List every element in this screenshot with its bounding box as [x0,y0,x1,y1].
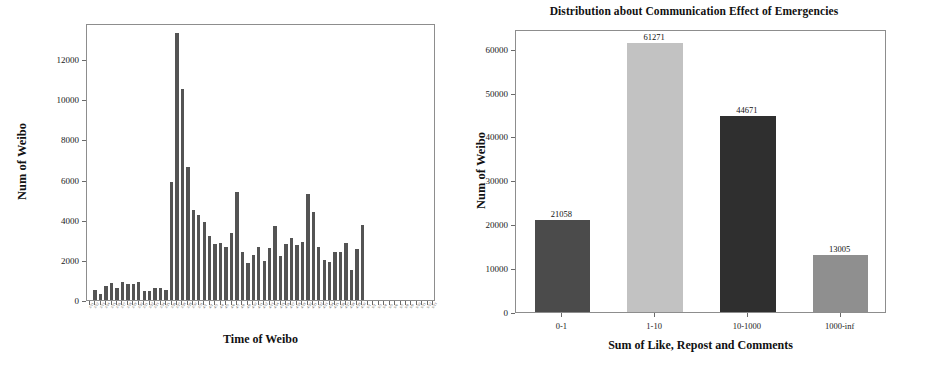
y-axis-tick-mark [82,261,86,262]
right-chart-title: Distribution about Communication Effect … [463,5,925,17]
y-axis-tick-mark [82,60,86,61]
bar [153,288,156,300]
right-chart-y-axis-title: Num of Weibo [474,110,489,230]
bar [175,33,178,300]
y-axis-tick-mark [511,225,515,226]
bar [121,282,124,300]
bar [104,286,107,300]
y-axis-tick-mark [82,140,86,141]
right-chart-plot-area [515,30,886,313]
two-panel-figure: Num of Weibo 020004000600080001000012000… [0,0,925,370]
y-axis-tick-label: 40000 [448,132,508,142]
bar [257,247,260,300]
right-chart-x-axis-title: Sum of Like, Repost and Comments [515,338,886,353]
bar [181,89,184,300]
x-axis-category-label: 1-10 [646,321,662,331]
y-axis-tick-mark [511,137,515,138]
bar [213,244,216,300]
bar [312,212,315,300]
bar [115,288,118,300]
bar [99,294,102,300]
x-axis-tick-mark [654,313,655,317]
bar [323,260,326,300]
y-axis-tick-label: 12000 [19,55,79,65]
x-axis-tick-mark [561,313,562,317]
bar [224,247,227,300]
y-axis-tick-label: 8000 [19,135,79,145]
y-axis-tick-mark [511,181,515,182]
y-axis-tick-label: 60000 [448,45,508,55]
y-axis-tick-mark [511,94,515,95]
bar [148,291,151,300]
y-axis-tick-label: 50000 [448,89,508,99]
bar [203,222,206,300]
x-axis-tick-mark [747,313,748,317]
bar-value-label: 21058 [551,209,572,219]
y-axis-tick-mark [82,181,86,182]
y-axis-tick-mark [511,50,515,51]
bar [350,270,353,301]
bar-value-label: 44671 [736,105,757,115]
bar [126,284,129,300]
bar [230,233,233,300]
bar [273,226,276,300]
bar [813,255,869,312]
bar [344,243,347,300]
y-axis-tick-label: 0 [448,308,508,318]
bar [535,220,591,312]
bar [186,167,189,300]
bar-value-label: 61271 [644,32,665,42]
y-axis-tick-mark [82,221,86,222]
bar [279,256,282,300]
bar [143,291,146,300]
bar [339,252,342,300]
bar [263,261,266,300]
bar [192,210,195,300]
y-axis-tick-label: 10000 [19,95,79,105]
bar [246,263,249,300]
bar [317,247,320,300]
bar [306,194,309,300]
bar-value-label: 13005 [829,244,850,254]
bar [290,238,293,300]
chart-panel-communication-effect: Distribution about Communication Effect … [463,0,925,370]
y-axis-tick-label: 30000 [448,176,508,186]
bar [295,245,298,300]
bar [137,282,140,300]
y-axis-tick-label: 10000 [448,264,508,274]
x-axis-category-label: 5/13 [431,302,438,310]
bar [110,283,113,300]
bar [159,288,162,300]
chart-panel-weibo-time-series: Num of Weibo 020004000600080001000012000… [0,0,463,370]
bar [268,248,271,300]
bar [355,249,358,300]
y-axis-tick-mark [511,269,515,270]
bar [241,252,244,300]
y-axis-tick-mark [82,301,86,302]
bar [208,236,211,300]
bar [164,290,167,300]
bar [361,225,364,300]
y-axis-tick-label: 6000 [19,176,79,186]
bar [328,262,331,300]
bar [720,116,776,312]
x-axis-category-label: 10-1000 [733,321,761,331]
left-chart-bar-group [87,25,434,300]
y-axis-tick-label: 20000 [448,220,508,230]
x-axis-category-label: 1000-inf [825,321,854,331]
bar [284,244,287,300]
x-axis-tick-mark [840,313,841,317]
y-axis-tick-label: 2000 [19,256,79,266]
bar [301,242,304,300]
bar [170,182,173,300]
bar [627,43,683,312]
left-chart-plot-area [86,24,435,301]
y-axis-tick-label: 0 [19,296,79,306]
x-axis-category-label: 0-1 [556,321,567,331]
y-axis-tick-mark [511,313,515,314]
left-chart-x-axis-title: Time of Weibo [86,332,435,347]
bar [219,243,222,300]
y-axis-tick-label: 4000 [19,216,79,226]
bar [333,252,336,300]
y-axis-tick-mark [82,100,86,101]
